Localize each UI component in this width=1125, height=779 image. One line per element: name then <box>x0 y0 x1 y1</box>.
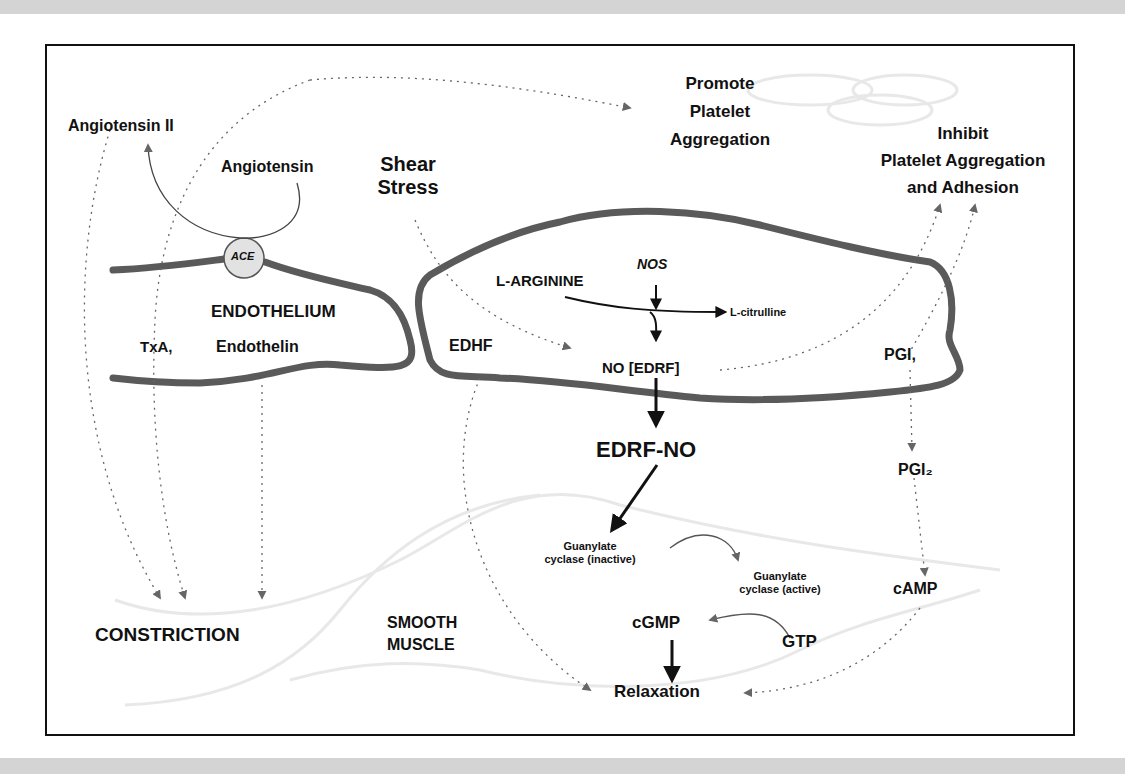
guanylate-activation-arrow <box>670 535 738 560</box>
arginine-to-no-arrow <box>650 312 656 340</box>
camp-label: cAMP <box>893 580 937 598</box>
edhf-label: EDHF <box>449 337 493 355</box>
pgi2-release-arrow <box>910 370 912 450</box>
nos-label: NOS <box>637 256 667 272</box>
camp-to-relaxation-arrow <box>745 608 920 693</box>
endothelium-label: ENDOTHELIUM <box>211 302 336 322</box>
angiotensin-ii-to-constriction-arrow <box>84 130 160 598</box>
pgi2-muscle-label: PGI₂ <box>898 461 933 479</box>
txa2-label: TxA, <box>140 338 173 355</box>
endothelin-label: Endothelin <box>216 338 299 356</box>
ace-label: ACE <box>231 250 254 263</box>
edrf-no-label: EDRF-NO <box>596 437 696 462</box>
edrf-no-to-guanylate-arrow <box>612 465 657 530</box>
guanylate-cyclase-inactive-label: Guanylate cyclase (inactive) <box>520 540 660 565</box>
txa2-to-platelet-aggregation-arrow <box>310 77 630 108</box>
relaxation-label: Relaxation <box>614 682 700 702</box>
guanylate-cyclase-active-label: Guanylate cyclase (active) <box>715 570 845 595</box>
pgi2-endothelium-label: PGI, <box>884 346 916 364</box>
promote-platelet-aggregation-label: Promote Platelet Aggregation <box>635 70 805 154</box>
angiotensin-label: Angiotensin <box>221 158 313 176</box>
angiotensin-ii-label: Angiotensin II <box>68 117 174 135</box>
pgi2-to-inhibit-platelet-arrow <box>908 205 975 355</box>
constriction-label: CONSTRICTION <box>95 624 240 646</box>
arginine-to-citrulline-arrow <box>565 297 725 312</box>
inhibit-platelet-aggregation-label: Inhibit Platelet Aggregation and Adhesio… <box>838 120 1088 202</box>
bottom-band <box>0 758 1125 774</box>
gtp-to-cgmp-arrow <box>710 614 790 638</box>
cgmp-label: cGMP <box>632 613 680 633</box>
endothelial-cell-right <box>418 211 960 399</box>
shear-stress-label: Shear Stress <box>358 153 458 199</box>
l-citrulline-label: L-citrulline <box>730 306 786 319</box>
no-edrf-label: NO [EDRF] <box>602 359 680 376</box>
l-arginine-label: L-ARGININE <box>496 272 584 289</box>
smooth-muscle-label: SMOOTH MUSCLE <box>387 612 457 655</box>
edhf-to-relaxation-arrow <box>463 378 590 690</box>
gtp-label: GTP <box>782 632 817 652</box>
